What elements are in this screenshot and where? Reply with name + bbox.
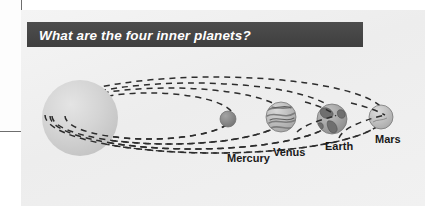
planet-label-mars: Mars bbox=[375, 133, 401, 145]
planet-label-venus: Venus bbox=[273, 146, 305, 158]
sidebar-box bbox=[0, 0, 22, 132]
planet-venus bbox=[266, 102, 296, 132]
planet-label-mercury: Mercury bbox=[227, 152, 271, 164]
page-background: What are the four inner planets? bbox=[0, 0, 435, 216]
planet-mercury bbox=[220, 111, 236, 127]
inner-solar-system-diagram: Mercury Venus Earth Mars bbox=[21, 10, 425, 206]
planet-label-earth: Earth bbox=[325, 140, 353, 152]
planet-earth bbox=[317, 104, 347, 134]
